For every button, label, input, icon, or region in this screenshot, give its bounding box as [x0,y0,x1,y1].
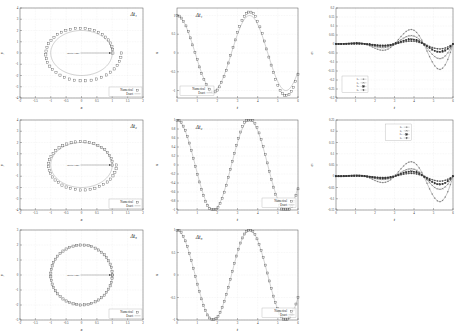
data-marker [442,183,444,185]
data-marker [439,69,441,71]
svg-text:5: 5 [277,99,279,103]
svg-text:0: 0 [174,163,176,167]
data-marker [385,49,387,51]
svg-text:0: 0 [333,42,335,46]
data-marker [411,29,413,31]
svg-text:5: 5 [433,99,435,103]
data-marker [49,65,51,67]
svg-text:0.05: 0.05 [329,33,335,37]
svg-text:t: t [394,105,396,110]
data-marker [442,188,444,190]
data-marker [450,184,452,186]
svg-text:0: 0 [81,321,83,325]
data-marker [377,181,379,183]
data-marker [55,149,57,151]
svg-text:0: 0 [176,99,178,103]
panel-orbit-dt3: -2-1.5-1-0.500.511.52-3-2-10123xyinitial… [0,222,155,336]
svg-text:1: 1 [111,211,113,215]
data-marker [372,179,374,181]
svg-text:-2: -2 [19,99,22,103]
svg-text:2: 2 [142,321,144,325]
data-marker [411,39,413,41]
data-marker [431,181,433,183]
svg-text:0.6: 0.6 [172,136,176,140]
data-marker [439,201,441,203]
data-marker [447,59,449,61]
data-marker [413,171,415,173]
svg-text:2: 2 [217,211,219,215]
data-marker [421,39,423,41]
panel-label: Δt₃ [129,233,137,239]
svg-text:-0.15: -0.15 [328,208,335,212]
svg-text:3: 3 [394,99,396,103]
data-marker [444,50,446,52]
data-marker [250,11,252,13]
svg-text:y: y [0,51,4,55]
data-marker [439,184,441,186]
svg-text:-0.5: -0.5 [64,99,69,103]
data-marker [45,50,47,52]
svg-text:0.5: 0.5 [172,251,176,255]
data-marker [426,47,428,49]
svg-text:0.15: 0.15 [329,141,335,145]
svg-text:0.15: 0.15 [329,15,335,19]
data-marker [437,48,439,50]
data-marker [288,93,290,95]
data-marker [57,182,59,184]
data-marker [434,183,436,185]
data-marker [431,61,433,63]
data-marker [408,161,410,163]
svg-text:-4: -4 [16,208,19,212]
svg-text:2: 2 [217,99,219,103]
svg-text:-0.2: -0.2 [170,172,175,176]
svg-text:6: 6 [452,211,454,215]
svg-text:1: 1 [196,211,198,215]
data-marker [403,37,405,39]
svg-text:4: 4 [257,321,259,325]
svg-text:2: 2 [142,99,144,103]
panel-x-vs-t-dt1: 0123456-1-0.500.51txΔt₁NumericalExact [155,0,310,112]
initial-time-annotation: initial time [67,51,80,55]
svg-text:-2: -2 [16,74,19,78]
svg-text:-0.3: -0.3 [329,96,334,100]
data-marker [408,29,410,31]
data-marker [447,46,449,48]
data-marker [79,189,81,191]
svg-text:1: 1 [111,99,113,103]
svg-text:1.5: 1.5 [126,211,130,215]
svg-text:6: 6 [297,99,299,103]
svg-text:0: 0 [335,99,337,103]
panel-label: Δt₁ [129,11,137,17]
data-marker [405,36,407,38]
svg-text:-0.1: -0.1 [329,60,334,64]
data-marker [363,86,365,88]
svg-text:4: 4 [413,211,415,215]
data-marker [45,54,47,56]
svg-text:0: 0 [335,211,337,215]
data-marker [93,30,95,32]
svg-text:-1.5: -1.5 [33,321,38,325]
data-marker [405,171,407,173]
svg-text:y: y [0,273,4,277]
svg-text:-3: -3 [16,318,19,322]
data-marker [416,173,418,175]
data-marker [89,28,91,30]
svg-text:2: 2 [17,29,19,33]
svg-text:3: 3 [394,211,396,215]
data-marker [429,180,431,182]
data-marker [84,27,86,29]
svg-text:-0.1: -0.1 [329,197,334,201]
svg-text:-1: -1 [49,99,52,103]
data-marker [284,95,286,97]
svg-text:3: 3 [17,129,19,133]
data-marker [444,182,446,184]
data-marker [442,180,444,182]
data-marker [387,181,389,183]
data-marker [413,41,415,43]
data-marker [115,168,117,170]
svg-text:0.5: 0.5 [95,99,99,103]
legend-label: Exact [126,314,133,318]
data-marker [411,171,413,173]
data-marker [120,56,122,58]
svg-text:0.2: 0.2 [172,154,176,158]
